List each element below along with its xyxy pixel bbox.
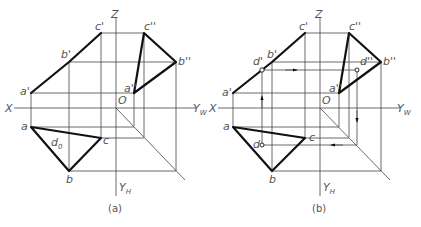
label-d: d [253, 138, 261, 151]
label-c: c [309, 131, 315, 144]
top-view-triangle [31, 127, 101, 171]
label-b-prime: b' [61, 48, 71, 61]
label-a-prime: a' [20, 85, 30, 98]
label-b: b [66, 173, 73, 186]
yw-axis-label: YW [193, 102, 208, 117]
label-c-prime: c' [299, 20, 308, 33]
label-a: a [21, 120, 28, 133]
x-axis-label: X [208, 102, 217, 115]
label-c: c [103, 134, 109, 147]
label-a-dprime: a'' [124, 82, 137, 95]
label-b-dprime: b'' [178, 55, 191, 68]
label-c-prime: c' [95, 20, 104, 33]
x-axis-label: X [4, 102, 13, 115]
label-a-prime: a' [222, 86, 232, 99]
point-d [260, 143, 264, 147]
point-d-dprime [355, 68, 359, 72]
yh-axis-label: YH [119, 181, 132, 196]
label-d0: d0 [51, 136, 63, 151]
point-d-prime [260, 68, 264, 72]
label-d-dprime: d'' [360, 55, 373, 68]
top-view-triangle [233, 127, 305, 171]
label-b: b [269, 173, 276, 186]
origin-label: O [118, 94, 127, 107]
z-axis-label: Z [314, 8, 323, 21]
label-c-dprime: c'' [349, 20, 361, 33]
label-d-prime: d' [253, 55, 263, 68]
front-view-line [233, 33, 305, 93]
panel-a: X Z O YW YH a' b' c' a'' b'' c'' a b c d… [4, 8, 208, 214]
diagonal-45 [116, 108, 185, 180]
yh-axis-label: YH [323, 181, 336, 196]
front-view-line [31, 33, 101, 93]
diagonal-45 [320, 108, 390, 180]
projection-diagram: X Z O YW YH a' b' c' a'' b'' c'' a b c d… [0, 0, 421, 227]
label-b-prime: b' [267, 48, 277, 61]
origin-label: O [322, 94, 331, 107]
caption-a: (a) [108, 203, 122, 214]
caption-b: (b) [312, 203, 326, 214]
yw-axis-label: YW [397, 102, 412, 117]
side-view-triangle [134, 33, 176, 93]
panel-b: X Z O YW YH a' b' c' d' a'' b'' c'' d'' … [208, 8, 412, 214]
label-c-dprime: c'' [144, 20, 156, 33]
label-a: a [223, 120, 230, 133]
label-b-dprime: b'' [383, 55, 396, 68]
z-axis-label: Z [110, 8, 119, 21]
label-a-dprime: a'' [329, 82, 342, 95]
